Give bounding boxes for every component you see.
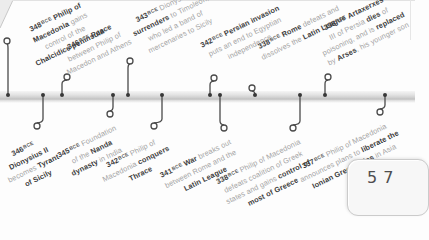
- event-dot: [6, 93, 10, 97]
- event-ring: [151, 123, 157, 129]
- event-ring: [107, 111, 113, 117]
- event-ring: [377, 109, 383, 115]
- event-ring: [4, 38, 10, 44]
- event-ring: [325, 74, 331, 80]
- event-marker-348bce-0: [4, 38, 10, 97]
- event-ring: [211, 75, 217, 81]
- event-ring: [34, 123, 40, 129]
- event-dot: [208, 93, 212, 97]
- event-ring: [127, 58, 133, 64]
- event-dot: [323, 93, 327, 97]
- page-number-tab: 57: [347, 159, 429, 216]
- event-dot: [253, 93, 257, 97]
- event-dot: [160, 93, 164, 97]
- event-dot: [111, 93, 115, 97]
- page-number: 57: [348, 160, 428, 187]
- event-dot: [298, 93, 302, 97]
- event-stem: [7, 44, 8, 96]
- event-dot: [60, 93, 64, 97]
- event-ring: [221, 125, 227, 131]
- event-ring: [64, 74, 70, 80]
- event-dot: [126, 93, 130, 97]
- event-dot: [41, 93, 45, 97]
- event-dot: [218, 93, 222, 97]
- event-dot: [383, 93, 387, 97]
- event-ring: [290, 125, 296, 131]
- timeline-band-shadow: [0, 100, 415, 104]
- event-ring: [249, 85, 255, 91]
